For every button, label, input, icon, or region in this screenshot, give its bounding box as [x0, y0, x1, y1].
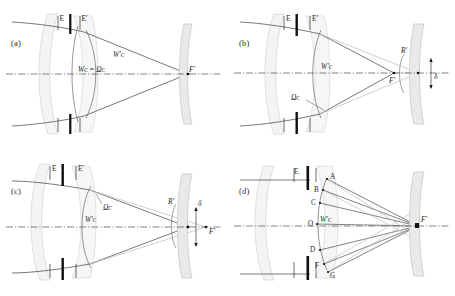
reference-sphere-label: Ωᴄ — [103, 203, 112, 212]
panel-b-tag: (b) — [239, 38, 250, 48]
focus-point — [393, 72, 396, 75]
pupil-point-c — [319, 202, 321, 204]
reference-sphere-leader — [96, 194, 102, 204]
wavefront-label: Wᴄ = Ωᴄ — [78, 65, 106, 74]
lower-converging-ray — [90, 227, 188, 264]
pupil-point-g — [327, 271, 329, 273]
reference-focus-point — [205, 226, 207, 228]
entrance-pupil-label: E — [52, 164, 57, 173]
reference-sphere-arc — [400, 54, 405, 93]
aperture-stop-upper — [69, 14, 71, 34]
corrector-lens — [265, 14, 284, 134]
focus-point — [187, 226, 190, 229]
pupil-point-f-label: F — [315, 262, 319, 270]
defocus-arrow-down — [194, 243, 197, 247]
entrance-pupil-label: E — [294, 167, 299, 176]
pupil-point-d-label: D — [310, 246, 315, 254]
pupil-point-a-label: A — [330, 173, 336, 181]
corrector-lens — [31, 164, 50, 280]
pupil-point-b-label: B — [314, 186, 319, 194]
focus-label: F′ — [208, 227, 216, 236]
defocus-label: δ — [198, 199, 202, 208]
corrector-lens — [255, 166, 274, 280]
pupil-point-f — [323, 263, 325, 265]
pupil-point-g-label: G — [330, 272, 335, 280]
panel-d-canvas: E A B C O W′ᴄ D F G F′ — [228, 148, 455, 296]
panel-c-canvas: E E′ Ωᴄ W′ᴄ R′ δ F′ — [0, 148, 227, 296]
panel-d: E A B C O W′ᴄ D F G F′ (d) — [228, 148, 455, 296]
ray-from-a — [327, 179, 418, 226]
exit-wavefront-label: W′ᴄ — [320, 215, 332, 224]
defocus-arrow-up — [429, 58, 432, 62]
pupil-point-b — [322, 189, 324, 191]
pupil-point-c-label: C — [311, 199, 316, 207]
exit-pupil-label: E′ — [78, 164, 85, 173]
focus-label: F′ — [388, 76, 396, 85]
panel-a: E E′ Wᴄ = Ωᴄ W′ᴄ F′ (a) — [0, 0, 227, 148]
entrance-pupil-label: E — [286, 14, 291, 23]
focal-surface — [178, 174, 193, 278]
pupil-point-a — [326, 178, 328, 180]
aperture-stop-lower — [307, 256, 310, 280]
reference-focus-point — [417, 72, 420, 75]
defocus-label: δ — [434, 72, 438, 81]
panel-d-tag: (d) — [239, 186, 250, 196]
lower-reference-ray — [320, 73, 418, 114]
reference-sphere-label: Ωᴄ — [291, 93, 300, 102]
exit-pupil-label: E′ — [312, 14, 319, 23]
aperture-stop-lower — [296, 112, 298, 134]
focus-label: F′ — [420, 215, 428, 224]
pupil-point-o-label: O — [308, 220, 313, 228]
exit-wavefront-label: W′ᴄ — [113, 50, 125, 59]
reference-sphere-image-label: R′ — [400, 46, 408, 55]
exit-wavefront-label: W′ᴄ — [85, 215, 97, 224]
panel-c: E E′ Ωᴄ W′ᴄ R′ δ F′ (c) — [0, 148, 227, 296]
panel-b: E E′ W′ᴄ Ωᴄ R′ F′ δ (b) — [228, 0, 455, 148]
aperture-stop-upper — [307, 166, 310, 190]
lower-converging-ray — [320, 73, 394, 114]
exit-pupil-label: E′ — [82, 14, 89, 23]
panel-a-tag: (a) — [11, 38, 21, 48]
lower-converging-ray — [84, 74, 188, 116]
focus-point — [415, 223, 419, 228]
aperture-stop-upper — [62, 164, 64, 186]
reference-sphere-image-label: R′ — [167, 197, 175, 206]
panel-c-tag: (c) — [11, 186, 21, 196]
panel-b-canvas: E E′ W′ᴄ Ωᴄ R′ F′ δ — [228, 0, 455, 148]
entrance-pupil-label: E — [60, 14, 65, 23]
pupil-point-d — [319, 249, 321, 251]
pupil-point-o — [316, 223, 318, 225]
defocus-arrow-down — [429, 85, 432, 89]
reference-sphere-arc — [172, 204, 177, 248]
aperture-stop-upper — [296, 14, 298, 36]
exit-wavefront-label: W′ᴄ — [321, 62, 333, 71]
aperture-stop-lower — [69, 114, 71, 134]
figure-root: E E′ Wᴄ = Ωᴄ W′ᴄ F′ (a) — [0, 0, 455, 296]
panel-a-canvas: E E′ Wᴄ = Ωᴄ W′ᴄ F′ — [0, 0, 227, 148]
focal-surface — [410, 24, 425, 124]
aperture-stop-lower — [62, 258, 64, 280]
focus-label: F′ — [188, 65, 196, 74]
